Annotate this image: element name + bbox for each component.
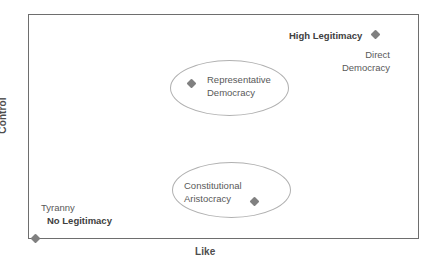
direct-democracy-label: Direct Democracy [304,48,390,74]
high-legitimacy-label: High Legitimacy [289,29,362,42]
direct-democracy-label-line1: Direct [304,48,390,61]
plot-area: High Legitimacy Direct Democracy Represe… [28,14,419,239]
direct-democracy-marker [371,30,381,40]
representative-democracy-label-line1: Representative [207,73,271,86]
tyranny-label: Tyranny [41,201,75,214]
constitutional-aristocracy-label-line1: Constitutional [184,179,242,192]
chart-canvas: Control Like High Legitimacy Direct Demo… [0,0,434,264]
tyranny-marker [31,234,41,244]
constitutional-aristocracy-label-line2: Aristocracy [184,192,242,205]
representative-democracy-label: Representative Democracy [207,73,271,99]
representative-democracy-label-line2: Democracy [207,86,271,99]
x-axis-title: Like [195,246,215,257]
constitutional-aristocracy-label: Constitutional Aristocracy [184,179,242,205]
direct-democracy-label-line2: Democracy [304,61,390,74]
y-axis-title: Control [0,97,8,133]
no-legitimacy-label: No Legitimacy [47,214,112,227]
